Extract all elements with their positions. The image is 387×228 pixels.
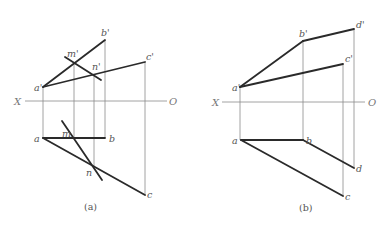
axis-label-x: X bbox=[13, 96, 22, 107]
point-label: n bbox=[86, 167, 92, 178]
point-label: d bbox=[356, 163, 362, 174]
point-label: m bbox=[62, 128, 71, 139]
point-label: a' bbox=[232, 82, 240, 93]
axis-label-o: O bbox=[169, 96, 177, 107]
segment-line bbox=[303, 29, 354, 41]
panel-b: XOb'd'c'a'abdc(b) bbox=[211, 19, 376, 213]
point-label: d' bbox=[356, 19, 365, 30]
point-label: a' bbox=[34, 82, 42, 93]
axis-label-x: X bbox=[211, 97, 220, 108]
point-label: m' bbox=[67, 48, 79, 59]
axis-label-o: O bbox=[368, 97, 376, 108]
projection-diagram: XOb'm'n'c'a'ambnc(a) XOb'd'c'a'abdc(b) bbox=[0, 0, 387, 228]
point-label: a bbox=[232, 135, 238, 146]
point-label: b' bbox=[101, 27, 110, 38]
projection-figure: XOb'm'n'c'a'ambnc(a) XOb'd'c'a'abdc(b) bbox=[0, 0, 387, 228]
segment-line bbox=[241, 140, 343, 196]
point-label: n' bbox=[92, 61, 101, 72]
panel-a: XOb'm'n'c'a'ambnc(a) bbox=[13, 27, 177, 212]
point-label: b bbox=[109, 133, 115, 144]
panel-caption: (b) bbox=[299, 202, 313, 213]
point-label: c bbox=[147, 189, 153, 200]
panel-caption: (a) bbox=[84, 201, 97, 212]
point-label: c' bbox=[146, 51, 154, 62]
point-label: b' bbox=[299, 28, 308, 39]
point-label: c' bbox=[345, 53, 353, 64]
point-label: b bbox=[306, 135, 312, 146]
point-label: a bbox=[34, 133, 40, 144]
point-label: c bbox=[345, 191, 351, 202]
